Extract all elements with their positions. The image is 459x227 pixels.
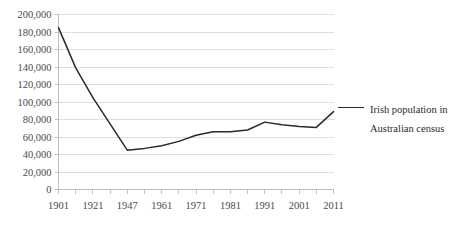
y-axis-tick-label: 100,000 (17, 97, 51, 108)
y-axis-tick-label: 200,000 (17, 9, 51, 20)
y-axis-tick-label: 120,000 (17, 79, 51, 90)
x-axis-tick-labels: 190119211947196119711981199120012011 (48, 200, 344, 211)
x-axis-tick-label: 1901 (48, 200, 69, 211)
x-axis-tickmarks (59, 190, 334, 194)
x-axis-tick-label: 1947 (117, 200, 138, 211)
x-axis-tick-label: 2011 (323, 200, 344, 211)
x-axis-tick-label: 1981 (220, 200, 241, 211)
gridlines (59, 15, 334, 173)
x-axis-tick-label: 2001 (289, 200, 310, 211)
legend-label-line-2: Australian census (370, 119, 448, 138)
y-axis-tick-labels: 020,00040,00060,00080,000100,000120,0001… (17, 9, 58, 195)
legend-label: Irish population in Australian census (370, 100, 448, 138)
y-axis-tick-label: 140,000 (17, 62, 51, 73)
y-axis-tick-label: 180,000 (17, 27, 51, 38)
x-axis-tick-label: 1991 (254, 200, 275, 211)
y-axis-tick-label: 80,000 (23, 114, 52, 125)
y-axis-tick-label: 40,000 (23, 149, 52, 160)
legend-label-line-1: Irish population in (370, 100, 448, 119)
x-axis-tick-label: 1961 (151, 200, 172, 211)
y-axis-tick-label: 160,000 (17, 44, 51, 55)
x-axis-tick-label: 1921 (82, 200, 103, 211)
x-axis-tick-label: 1971 (186, 200, 207, 211)
chart-container: 020,00040,00060,00080,000100,000120,0001… (0, 0, 459, 227)
y-axis-tick-label: 60,000 (23, 132, 52, 143)
series-line (59, 28, 334, 151)
y-axis-tick-label: 0 (46, 184, 51, 195)
legend-line-swatch (338, 107, 364, 109)
y-axis-tick-label: 20,000 (23, 167, 52, 178)
chart-legend: Irish population in Australian census (338, 100, 448, 138)
data-series-line (59, 28, 334, 151)
